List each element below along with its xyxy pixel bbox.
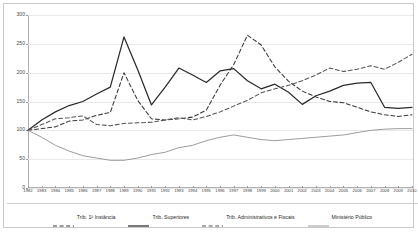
- x-axis-tick-label: 1987: [92, 189, 101, 193]
- chart-legend: Trib. 1ª InstânciaTrib. SuperioresTrib. …: [7, 203, 418, 231]
- x-axis-tick-label: 1990: [133, 189, 142, 193]
- x-axis-tick-label: 2008: [380, 189, 389, 193]
- x-axis-tick-label: 2010: [407, 189, 416, 193]
- plot-wrapper: 050100150200250300: [28, 15, 413, 188]
- chart-container: 050100150200250300 198219831984198519861…: [3, 3, 414, 228]
- legend-swatch-icon: [128, 215, 149, 221]
- chart-screenshot: 050100150200250300 198219831984198519861…: [0, 0, 418, 235]
- x-axis-tick-label: 1989: [119, 189, 128, 193]
- legend-swatch-icon: [202, 215, 223, 221]
- x-axis-tick-label: 1983: [37, 189, 46, 193]
- series-line: [28, 37, 412, 130]
- x-axis-tick-label: 2007: [366, 189, 375, 193]
- series-lines: [28, 15, 413, 188]
- x-axis-tick-label: 2001: [284, 189, 293, 193]
- x-axis-tick-label: 1994: [188, 189, 197, 193]
- series-line: [28, 35, 412, 130]
- x-axis-tick-label: 1993: [174, 189, 183, 193]
- x-axis-tick-label: 1998: [243, 189, 252, 193]
- x-axis-tick-label: 1996: [215, 189, 224, 193]
- legend-swatch-icon: [308, 215, 329, 221]
- x-axis-tick-label: 1991: [147, 189, 156, 193]
- x-axis-tick-label: 1986: [78, 189, 87, 193]
- x-axis-tick-label: 1992: [160, 189, 169, 193]
- y-axis-tick-label: 300: [17, 12, 26, 17]
- x-axis-tick-label: 2004: [325, 189, 334, 193]
- legend-label: Trib. 1ª Instância: [77, 215, 116, 220]
- legend-swatch-icon: [53, 215, 74, 221]
- x-axis-tick-label: 2009: [394, 189, 403, 193]
- legend-label: Trib. Administrativos e Fiscais: [226, 215, 294, 220]
- y-axis-tick-label: 250: [17, 41, 26, 46]
- x-axis-tick-label: 2006: [352, 189, 361, 193]
- x-axis-tick-label: 2005: [339, 189, 348, 193]
- legend-item[interactable]: Trib. 1ª Instância: [53, 215, 116, 221]
- y-axis-tick-label: 150: [17, 99, 26, 104]
- x-axis-tick-label: 2002: [298, 189, 307, 193]
- series-line: [28, 129, 412, 161]
- x-axis-tick-label: 1982: [23, 189, 32, 193]
- y-axis-tick-label: 100: [17, 128, 26, 133]
- legend-label: Trib. Superiores: [152, 215, 189, 220]
- legend-item[interactable]: Ministério Público: [308, 215, 373, 221]
- x-axis-tick-label: 1999: [256, 189, 265, 193]
- x-axis-ticks: 1982198319841985198619871988198919901991…: [28, 189, 413, 201]
- x-axis-tick-label: 1988: [106, 189, 115, 193]
- y-axis-tick-label: 200: [17, 70, 26, 75]
- x-axis-tick-label: 2000: [270, 189, 279, 193]
- x-axis-tick-label: 1985: [64, 189, 73, 193]
- legend-item[interactable]: Trib. Administrativos e Fiscais: [202, 215, 294, 221]
- x-axis-tick-label: 1984: [51, 189, 60, 193]
- x-axis-tick-label: 2003: [311, 189, 320, 193]
- y-axis-tick-label: 50: [19, 157, 25, 162]
- x-axis-tick-label: 1995: [202, 189, 211, 193]
- legend-item[interactable]: Trib. Superiores: [128, 215, 189, 221]
- x-axis-tick-label: 1997: [229, 189, 238, 193]
- legend-label: Ministério Público: [332, 215, 373, 220]
